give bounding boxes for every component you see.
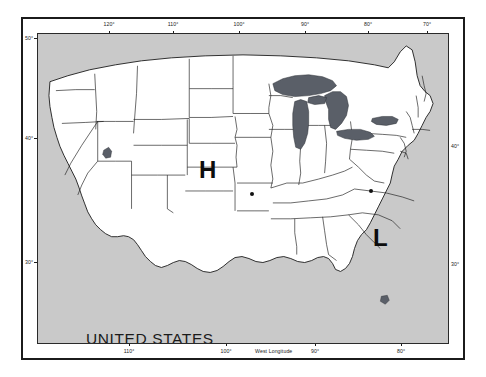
low-pressure-symbol: L — [373, 226, 388, 250]
longitude-label-top-110: 110° — [168, 21, 179, 27]
axis-label-west-longitude: West Longitude — [255, 348, 292, 354]
station-dot-western — [250, 192, 254, 196]
longitude-label-bottom-110: 110° — [124, 348, 135, 354]
latitude-label-left-30: 30° — [25, 259, 33, 265]
united-states-map-svg — [38, 34, 448, 343]
longitude-label-top-100: 100° — [233, 21, 244, 27]
latitude-label-left-40: 40° — [25, 135, 33, 141]
longitude-label-top-70: 70° — [423, 21, 431, 27]
longitude-label-bottom-100: 100° — [220, 348, 231, 354]
longitude-label-bottom-80: 80° — [397, 348, 405, 354]
longitude-label-top-120: 120° — [103, 21, 114, 27]
station-dot-eastern — [369, 189, 373, 193]
us-weather-map-figure: 120° 110° 100° 90° 80° 70° 110° 100° 90°… — [0, 0, 486, 377]
latitude-label-right-40: 40° — [451, 143, 459, 149]
map-title-united-states: UNITED STATES — [86, 330, 214, 344]
longitude-label-top-80: 80° — [364, 21, 372, 27]
latitude-label-right-30: 30° — [451, 261, 459, 267]
latitude-label-left-50: 50° — [25, 35, 33, 41]
longitude-label-bottom-90: 90° — [311, 348, 319, 354]
map-panel: UNITED STATES H L 0 200 400 600 MILES Ro… — [37, 33, 449, 344]
lake-okeechobee — [380, 295, 389, 304]
longitude-label-top-90: 90° — [301, 21, 309, 27]
high-pressure-symbol: H — [199, 158, 216, 182]
lake-ontario — [371, 116, 398, 125]
